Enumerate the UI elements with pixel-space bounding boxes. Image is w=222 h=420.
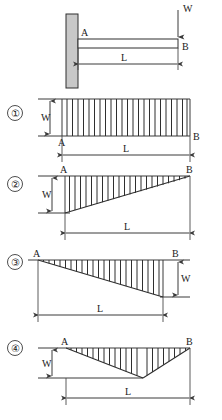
beam-label-B: B: [182, 41, 189, 52]
beam-assembly: W A B L: [66, 3, 193, 88]
option-3-label-B: B: [172, 248, 179, 259]
option-2-label-B: B: [186, 164, 193, 175]
option-2-hypotenuse: [65, 176, 190, 213]
option-2-label-A: A: [60, 164, 68, 175]
load-label-W: W: [183, 3, 193, 14]
engineering-diagram: W A B L ① W A B: [0, 0, 222, 420]
option-4-group: ④ W A B L: [8, 336, 194, 405]
option-4-label-B: B: [186, 336, 193, 347]
beam-member: [78, 39, 178, 48]
option-3-hypotenuse: [38, 260, 163, 297]
option-4-label-W: W: [42, 358, 52, 369]
option-1-hatching: [67, 99, 187, 136]
option-2-label-W: W: [42, 189, 52, 200]
option-2-group: ② W A B L: [8, 164, 194, 240]
option-1-group: ① W A B L: [8, 99, 201, 162]
option-1-label-L: L: [123, 143, 129, 154]
option-4-label-L: L: [125, 386, 131, 397]
fixed-wall: [66, 14, 78, 88]
option-4-label-A: A: [61, 336, 69, 347]
option-1-label-W: W: [41, 112, 51, 123]
option-1-label-B: B: [193, 131, 200, 142]
figure-root: W A B L ① W A B: [0, 0, 222, 420]
option-4-right-slope: [143, 348, 190, 378]
option-3-label-A: A: [33, 248, 41, 259]
option-1-number: ①: [11, 109, 20, 119]
option-3-group: ③ W A B L: [8, 248, 192, 322]
option-3-label-L: L: [97, 303, 103, 314]
option-3-number: ③: [11, 258, 20, 268]
option-2-label-L: L: [124, 221, 130, 232]
option-2-number: ②: [11, 180, 20, 190]
beam-label-A: A: [81, 27, 89, 38]
option-4-number: ④: [11, 344, 20, 354]
span-label-L-beam: L: [121, 52, 127, 63]
option-3-label-W: W: [181, 273, 191, 284]
